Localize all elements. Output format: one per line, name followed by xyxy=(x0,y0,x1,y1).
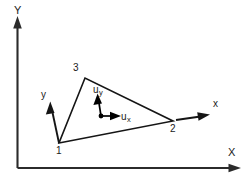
ux-vector-arrowhead xyxy=(110,112,121,120)
local-x-axis-arrowhead xyxy=(197,112,210,121)
local-y-axis-label: y xyxy=(41,90,46,100)
local-x-axis-label: x xyxy=(213,99,218,109)
triangular-element-outline xyxy=(59,78,173,143)
global-y-axis-arrowhead xyxy=(13,16,22,29)
global-y-axis xyxy=(13,16,22,168)
uy-vector-symbol: u xyxy=(93,84,99,95)
figure-canvas: Y X y x 1 2 3 ux uy xyxy=(0,0,250,182)
local-y-axis xyxy=(46,102,59,144)
ux-vector-label: ux xyxy=(121,112,130,122)
local-y-axis-arrowhead xyxy=(46,102,55,115)
local-x-axis xyxy=(176,112,210,121)
uy-vector-label: uy xyxy=(93,85,102,95)
node-label-2: 2 xyxy=(170,124,176,134)
ux-vector-subscript: x xyxy=(127,115,131,124)
uy-vector-line xyxy=(99,103,101,116)
element-triangle xyxy=(59,78,173,143)
global-x-axis-label: X xyxy=(228,147,235,158)
global-y-axis-label: Y xyxy=(14,5,21,16)
local-x-axis-line xyxy=(176,117,201,121)
uy-vector-subscript: y xyxy=(99,88,103,97)
node-label-3: 3 xyxy=(73,63,79,73)
global-x-axis-arrowhead xyxy=(229,164,242,173)
global-x-axis xyxy=(18,164,242,173)
diagram-svg xyxy=(0,0,250,182)
local-y-axis-line xyxy=(53,113,59,143)
displacement-vectors xyxy=(93,94,121,121)
node-label-1: 1 xyxy=(56,146,62,156)
ux-vector-symbol: u xyxy=(121,111,127,122)
